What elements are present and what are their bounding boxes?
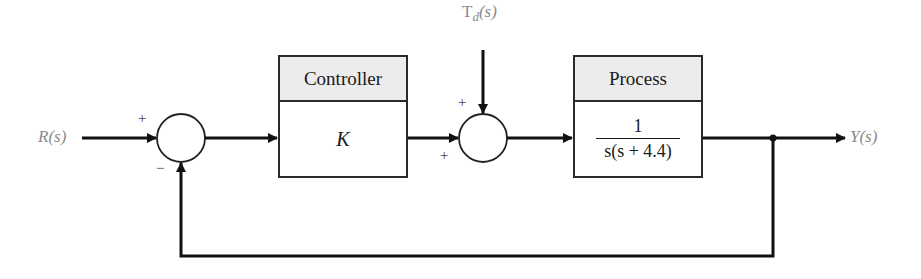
sum2-plus-sign-left: +: [440, 147, 448, 164]
input-label-text: R(s): [38, 127, 66, 146]
output-label: Y(s): [850, 127, 877, 147]
process-header: Process: [575, 57, 701, 102]
output-label-text: Y(s): [850, 127, 877, 146]
process-block: Process 1 s(s + 4.4): [573, 55, 703, 178]
process-transfer-function: 1 s(s + 4.4): [596, 116, 680, 162]
summing-junction-1: [157, 114, 205, 162]
sum1-minus-sign: −: [156, 160, 164, 177]
controller-header: Controller: [280, 57, 406, 102]
controller-gain: K: [336, 128, 349, 151]
sum2-plus-sign-top: +: [458, 94, 466, 111]
process-denominator: s(s + 4.4): [604, 139, 672, 162]
process-numerator: 1: [630, 116, 647, 138]
disturbance-label-main: T: [462, 2, 472, 21]
summing-junction-2: [459, 114, 507, 162]
input-label: R(s): [38, 127, 66, 147]
diagram-wires: [0, 0, 921, 279]
controller-block: Controller K: [278, 55, 408, 178]
controller-body: K: [280, 102, 406, 176]
disturbance-label-arg: (s): [479, 2, 497, 21]
sum1-plus-sign: +: [138, 110, 146, 127]
process-body: 1 s(s + 4.4): [575, 102, 701, 176]
disturbance-label: Td(s): [462, 2, 497, 25]
